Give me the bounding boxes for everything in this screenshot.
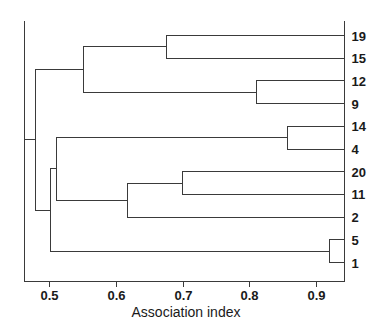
x-tick-label-0: 0.5: [40, 288, 58, 303]
leaf-label-20: 20: [352, 165, 366, 180]
dendrogram-plot: 0.5 0.6 0.7 0.8 0.9 Association index 19…: [0, 0, 372, 322]
x-tick-label-3: 0.8: [240, 288, 258, 303]
leaf-label-12: 12: [352, 74, 366, 89]
leaf-label-15: 15: [352, 51, 366, 66]
leaf-label-19: 19: [352, 29, 366, 44]
x-tick-label-2: 0.7: [174, 288, 192, 303]
x-tick-label-1: 0.6: [107, 288, 125, 303]
plot-background: [0, 0, 372, 322]
leaf-label-14: 14: [352, 119, 367, 134]
leaf-label-2: 2: [352, 210, 359, 225]
x-axis-title: Association index: [132, 304, 241, 320]
dendrogram-figure: 0.5 0.6 0.7 0.8 0.9 Association index 19…: [0, 0, 372, 322]
leaf-label-9: 9: [352, 97, 359, 112]
leaf-label-4: 4: [352, 142, 360, 157]
leaf-label-11: 11: [352, 187, 366, 202]
x-tick-label-4: 0.9: [307, 288, 325, 303]
leaf-label-5: 5: [352, 233, 359, 248]
leaf-label-1: 1: [352, 256, 359, 271]
